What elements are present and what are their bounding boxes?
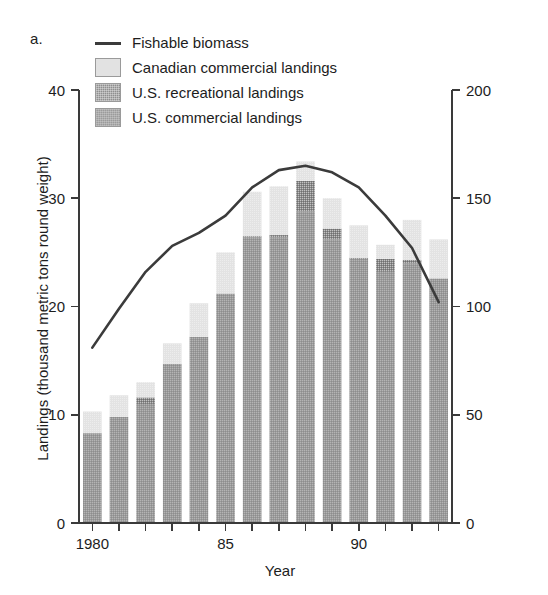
bar-segment-canadian-commercial[interactable] — [190, 303, 209, 337]
y-axis-right-tick-label: 200 — [466, 82, 491, 99]
bar-segment-canadian-commercial[interactable] — [270, 186, 289, 235]
bar-segment-us-commercial[interactable] — [296, 211, 315, 523]
bar-segment-us-commercial[interactable] — [376, 272, 395, 523]
chart-root: a. Fishable biomass Canadian commercial … — [0, 0, 548, 595]
x-axis-tick-label: 90 — [350, 535, 367, 552]
bar-segment-us-commercial[interactable] — [163, 364, 182, 523]
bar-segment-us-commercial[interactable] — [243, 237, 262, 523]
bar-stack[interactable] — [296, 161, 315, 523]
bar-stack[interactable] — [190, 303, 209, 523]
bar-stack[interactable] — [216, 252, 235, 523]
y-axis-right-tick-label: 0 — [466, 515, 474, 532]
bar-segment-us-commercial[interactable] — [270, 237, 289, 523]
bar-segment-us-commercial[interactable] — [429, 278, 448, 523]
bar-stack[interactable] — [403, 220, 422, 523]
bar-segment-us-commercial[interactable] — [403, 263, 422, 523]
bar-segment-canadian-commercial[interactable] — [83, 412, 102, 434]
bar-segment-us-commercial[interactable] — [349, 259, 368, 523]
bar-segment-us-commercial[interactable] — [136, 404, 155, 523]
bar-segment-us-recreational[interactable] — [270, 235, 289, 237]
bar-segment-canadian-commercial[interactable] — [376, 245, 395, 259]
y-axis-left-tick-label: 10 — [48, 406, 65, 423]
bar-segment-canadian-commercial[interactable] — [429, 239, 448, 278]
bar-segment-us-commercial[interactable] — [110, 417, 129, 523]
bar-segment-canadian-commercial[interactable] — [163, 343, 182, 364]
bar-stack[interactable] — [110, 395, 129, 523]
bar-stack[interactable] — [429, 239, 448, 523]
y-axis-right-tick-label: 150 — [466, 190, 491, 207]
bar-segment-us-commercial[interactable] — [83, 433, 102, 523]
bar-segment-us-recreational[interactable] — [376, 259, 395, 272]
bar-segment-canadian-commercial[interactable] — [243, 192, 262, 236]
bar-stack[interactable] — [83, 412, 102, 524]
bar-stack[interactable] — [136, 382, 155, 523]
bar-stack[interactable] — [270, 186, 289, 523]
bar-segment-canadian-commercial[interactable] — [110, 395, 129, 417]
bar-segment-us-commercial[interactable] — [216, 294, 235, 523]
bar-stack[interactable] — [243, 192, 262, 523]
bar-segment-us-recreational[interactable] — [296, 181, 315, 211]
bar-segment-us-recreational[interactable] — [323, 229, 342, 240]
bar-segment-canadian-commercial[interactable] — [136, 382, 155, 397]
x-axis-tick-label: 85 — [217, 535, 234, 552]
bar-segment-us-recreational[interactable] — [136, 397, 155, 404]
bar-segment-canadian-commercial[interactable] — [349, 225, 368, 257]
bar-segment-us-recreational[interactable] — [349, 258, 368, 259]
bar-stack[interactable] — [163, 343, 182, 523]
bar-segment-canadian-commercial[interactable] — [296, 161, 315, 180]
x-axis-tick-label: 1980 — [76, 535, 109, 552]
bar-segment-canadian-commercial[interactable] — [216, 252, 235, 293]
plot-area: 01020304005010015020019808590 — [0, 0, 548, 595]
bar-segment-us-commercial[interactable] — [323, 239, 342, 523]
y-axis-left-tick-label: 40 — [48, 82, 65, 99]
bar-series-group — [83, 161, 448, 523]
bar-stack[interactable] — [323, 198, 342, 523]
bar-segment-us-commercial[interactable] — [190, 337, 209, 523]
bar-stack[interactable] — [349, 225, 368, 523]
y-axis-left-tick-label: 30 — [48, 190, 65, 207]
y-axis-right-tick-label: 100 — [466, 298, 491, 315]
bar-segment-us-recreational[interactable] — [243, 236, 262, 237]
bar-stack[interactable] — [376, 245, 395, 523]
bar-segment-canadian-commercial[interactable] — [323, 198, 342, 228]
y-axis-left-tick-label: 20 — [48, 298, 65, 315]
y-axis-left-tick-label: 0 — [57, 515, 65, 532]
y-axis-right-tick-label: 50 — [466, 406, 483, 423]
